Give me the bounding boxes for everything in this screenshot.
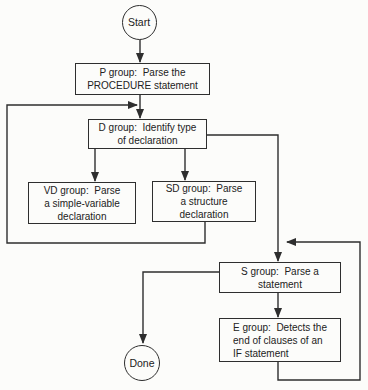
node-d-group: D group: Identify type of declaration [88,119,207,149]
edge-s-to-done [143,272,219,343]
node-p-group: P group: Parse the PROCEDURE statement [75,63,210,95]
p-group-label: P group: Parse the PROCEDURE statement [87,66,198,92]
node-start: Start [122,5,157,40]
node-vd-group: VD group: Parse a simple-variable declar… [28,182,136,224]
d-group-label: D group: Identify type of declaration [99,121,197,147]
node-e-group: E group: Detects the end of clauses of a… [219,318,341,362]
e-group-label: E group: Detects the end of clauses of a… [233,321,327,360]
node-sd-group: SD group: Parse a structure declaration [152,181,256,222]
done-label: Done [129,357,154,370]
sd-group-label: SD group: Parse a structure declaration [166,182,243,221]
node-s-group: S group: Parse a statement [219,262,341,293]
flowchart: Start P group: Parse the PROCEDURE state… [0,0,368,390]
s-group-label: S group: Parse a statement [241,265,319,291]
vd-group-label: VD group: Parse a simple-variable declar… [44,184,121,223]
start-label: Start [128,16,150,29]
node-done: Done [124,345,160,381]
